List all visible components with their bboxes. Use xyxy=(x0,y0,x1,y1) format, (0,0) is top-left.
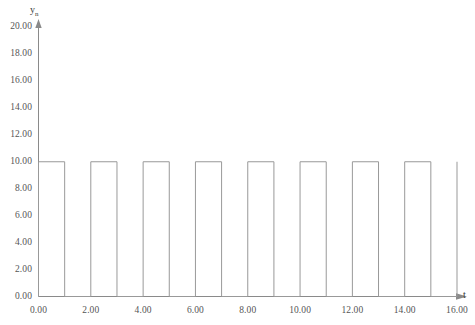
x-tick-label-7: 14.00 xyxy=(383,305,427,315)
x-tick-label-4: 8.00 xyxy=(226,305,270,315)
x-axis-title: t xyxy=(463,289,466,300)
y-tick-label-10: 20.00 xyxy=(0,21,32,31)
x-tick-label-5: 10.00 xyxy=(278,305,322,315)
y-tick-label-0: 0.00 xyxy=(0,291,32,301)
y-axis-title: yn xyxy=(30,4,39,18)
x-tick-label-1: 2.00 xyxy=(69,305,113,315)
y-axis-title-subscript: n xyxy=(35,10,39,18)
x-tick-label-6: 12.00 xyxy=(330,305,374,315)
x-tick-label-0: 0.00 xyxy=(17,305,61,315)
y-axis-arrowhead xyxy=(35,19,41,28)
y-tick-label-1: 2.00 xyxy=(0,264,32,274)
chart-canvas: 0.002.004.006.008.0010.0012.0014.0016.00… xyxy=(0,0,475,325)
y-tick-label-8: 16.00 xyxy=(0,75,32,85)
y-tick-label-4: 8.00 xyxy=(0,183,32,193)
square-wave-plot xyxy=(0,0,475,325)
series-group xyxy=(39,162,458,297)
y-tick-label-7: 14.00 xyxy=(0,102,32,112)
y-tick-label-3: 6.00 xyxy=(0,210,32,220)
x-axis-title-text: t xyxy=(463,289,466,300)
x-tick-label-2: 4.00 xyxy=(121,305,165,315)
y-tick-label-9: 18.00 xyxy=(0,48,32,58)
axes-group xyxy=(35,19,467,300)
y-tick-label-6: 12.00 xyxy=(0,129,32,139)
waveform-line xyxy=(39,162,458,297)
y-tick-label-5: 10.00 xyxy=(0,156,32,166)
y-tick-label-2: 4.00 xyxy=(0,237,32,247)
x-tick-label-8: 16.00 xyxy=(435,305,475,315)
x-tick-label-3: 6.00 xyxy=(173,305,217,315)
